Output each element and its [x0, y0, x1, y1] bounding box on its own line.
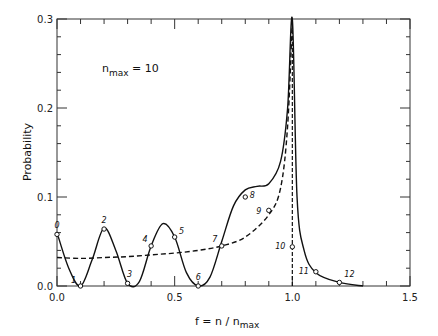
data-point-label: 12 [344, 270, 354, 279]
data-point-label: 6 [196, 273, 201, 282]
x-axis-label: f = n / nmax [195, 315, 260, 330]
data-point-marker [220, 244, 224, 248]
data-point-marker [102, 227, 106, 231]
data-point-label: 8 [250, 191, 255, 200]
data-point-label: 0 [54, 221, 59, 230]
data-point-label: 10 [275, 242, 285, 251]
data-point-marker [337, 280, 341, 284]
data-point-marker [290, 245, 294, 249]
y-axis-label: Probability [21, 122, 34, 181]
data-curves [57, 17, 363, 287]
y-tick-label: 0.2 [37, 103, 53, 114]
data-point-marker [172, 235, 176, 239]
data-point-marker [196, 284, 200, 288]
data-point-label: 4 [143, 235, 148, 244]
probability-chart: 0.00.51.01.50.00.10.20.3 012345678910111… [0, 0, 438, 336]
y-tick-label: 0.1 [37, 192, 53, 203]
data-point-marker [125, 281, 129, 285]
labeled-points: 0123456789101112 [54, 191, 354, 288]
x-tick-label: 0.5 [167, 292, 183, 303]
classical-curve [57, 19, 292, 258]
quantum-curve [57, 17, 363, 287]
data-point-label: 7 [212, 235, 218, 244]
y-tick-label: 0.0 [37, 281, 53, 292]
data-point-label: 5 [179, 227, 184, 236]
data-point-label: 11 [299, 267, 309, 276]
data-point-marker [314, 270, 318, 274]
x-tick-label: 0.0 [49, 292, 65, 303]
x-tick-label: 1.5 [402, 292, 418, 303]
axis-ticks: 0.00.51.01.50.00.10.20.3 [37, 14, 418, 303]
y-tick-label: 0.3 [37, 14, 53, 25]
data-point-label: 3 [127, 270, 132, 279]
nmax-annotation: nmax = 10 [102, 62, 159, 78]
data-point-marker [78, 284, 82, 288]
data-point-label: 9 [256, 207, 261, 216]
data-point-marker [55, 232, 59, 236]
plot-frame [57, 19, 410, 286]
data-point-label: 2 [102, 216, 107, 225]
data-point-marker [149, 244, 153, 248]
data-point-label: 1 [71, 276, 76, 285]
plot-border [57, 19, 410, 286]
x-tick-label: 1.0 [284, 292, 300, 303]
data-point-marker [267, 208, 271, 212]
data-point-marker [243, 195, 247, 199]
